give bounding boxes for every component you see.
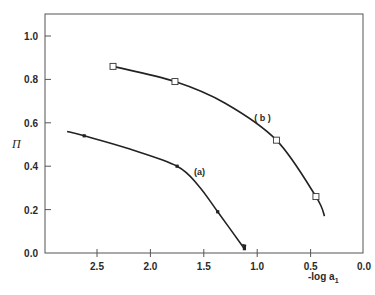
series-label: ( b ) [254,113,271,123]
y-tick-label: 1.0 [24,31,38,42]
x-axis: 2.52.01.51.00.50.0 [90,249,371,272]
series-curve [67,131,244,248]
plot-frame [45,14,363,253]
square-marker-icon [313,194,319,200]
point-marker-icon [83,134,86,137]
series-label: (a) [194,167,205,177]
y-tick-label: 0.2 [24,205,38,216]
plot-border [45,14,363,253]
x-tick-label: 1.5 [197,261,211,272]
point-marker-icon [176,165,179,168]
x-tick-label: 2.5 [90,261,104,272]
series-curve [113,66,324,216]
y-axis-label: Π [11,137,22,151]
annotation-layer: ( b )(a) [194,113,271,177]
y-tick-label: 0.6 [24,118,38,129]
chart: 0.00.20.40.60.81.0 2.52.01.51.00.50.0 Π … [0,0,375,295]
x-axis-label: -log a1 [308,271,339,284]
y-tick-label: 0.0 [24,248,38,259]
y-tick-label: 0.8 [24,74,38,85]
series-a [67,131,246,250]
x-tick-label: 2.0 [143,261,157,272]
x-tick-label: 0.0 [357,261,371,272]
x-tick-label: 1.0 [250,261,264,272]
y-axis: 0.00.20.40.60.81.0 [24,31,51,259]
series-b [110,63,324,216]
square-marker-icon [172,79,178,85]
series-layer [67,63,324,250]
square-marker-icon [273,137,279,143]
svg-text:-log a1: -log a1 [308,271,339,284]
square-marker-icon [110,63,116,69]
y-tick-label: 0.4 [24,161,38,172]
point-marker-icon [216,210,219,213]
